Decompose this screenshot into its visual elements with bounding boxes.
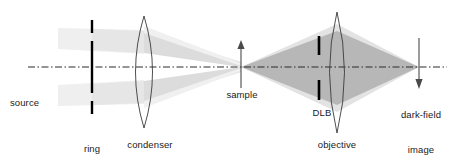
label-dark-field-line2: image [393,144,449,156]
dark-field-image-arrow [415,38,422,89]
label-objective: objective [300,139,374,151]
beam-aperture-upper [92,29,144,53]
label-condenser: condenser [108,139,192,151]
label-sample: sample [216,89,268,101]
label-source: source [10,97,39,109]
sample-arrow-head [237,40,244,49]
label-dark-field-line1: dark-field [393,109,449,121]
label-dlb: DLB [306,107,338,119]
dark-field-microscopy-diagram: source ring aperture condenser sample DL… [0,0,451,161]
label-dark-field-image: dark-field image [393,86,449,161]
